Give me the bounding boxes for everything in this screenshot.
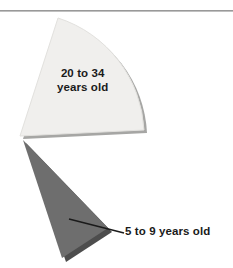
chart-figure: 20 to 34 years old 5 to 9 years old [0,0,233,268]
dark-wedge-group [23,140,112,262]
slice-label-5-to-9: 5 to 9 years old [125,224,210,238]
slice-label-20-to-34-line2: years old [57,80,108,94]
slice-label-20-to-34: 20 to 34 years old [57,66,108,94]
slice-label-20-to-34-line1: 20 to 34 [57,66,108,80]
